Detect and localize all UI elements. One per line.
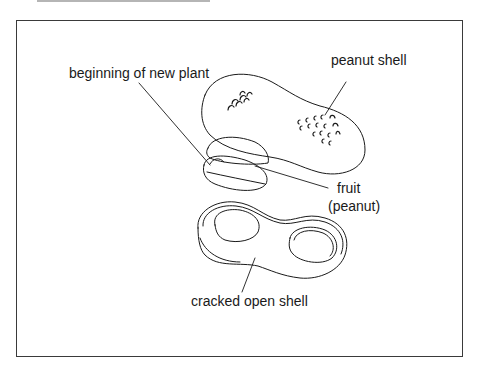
label-cracked-open-shell: cracked open shell (191, 293, 308, 309)
leader-lines (139, 82, 346, 292)
cracked-shell-drawing (198, 202, 347, 278)
peanut-diagram (0, 0, 481, 374)
label-peanut-shell: peanut shell (331, 52, 407, 68)
fruit-drawing (203, 137, 268, 190)
label-beginning-of-new-plant: beginning of new plant (69, 65, 209, 81)
label-fruit: fruit (337, 180, 360, 196)
peanut-shell-drawing (202, 74, 365, 174)
label-fruit-peanut: (peanut) (328, 198, 380, 214)
